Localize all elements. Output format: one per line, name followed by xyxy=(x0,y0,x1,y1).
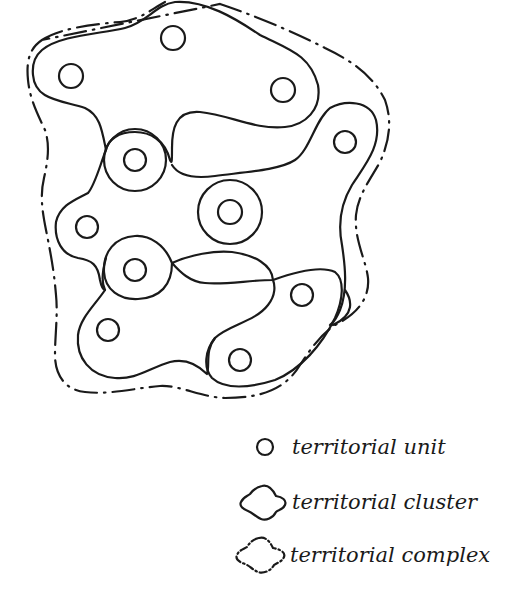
legend-item-unit: territorial unit xyxy=(257,435,446,459)
cluster-ring-center-top xyxy=(104,129,166,191)
territorial-unit xyxy=(124,149,146,171)
cluster-ring-lower-center xyxy=(104,236,172,299)
legend-item-complex: territorial complex xyxy=(236,538,490,573)
territorial-unit xyxy=(271,78,295,102)
cluster-ring-middle-right xyxy=(198,180,262,244)
territorial-complex-boundary xyxy=(28,2,390,398)
legend-label-cluster: territorial cluster xyxy=(292,490,479,514)
territorial-diagram: territorial unit territorial cluster ter… xyxy=(0,0,519,594)
territorial-units xyxy=(59,26,356,371)
territorial-unit xyxy=(124,259,146,281)
territorial-unit xyxy=(229,349,251,371)
unit-symbol-icon xyxy=(257,439,273,455)
territorial-unit xyxy=(161,26,185,50)
cluster-lens xyxy=(172,252,273,284)
territorial-unit xyxy=(76,216,98,238)
territorial-cluster-lower-right xyxy=(206,269,342,386)
legend-label-unit: territorial unit xyxy=(292,435,446,459)
territorial-cluster-left xyxy=(56,150,106,290)
territorial-unit xyxy=(218,200,242,224)
legend-item-cluster: territorial cluster xyxy=(240,486,479,520)
territorial-unit xyxy=(97,319,119,341)
territorial-unit xyxy=(334,131,356,153)
legend: territorial unit territorial cluster ter… xyxy=(236,435,490,573)
territorial-unit xyxy=(291,284,313,306)
legend-label-complex: territorial complex xyxy=(290,543,490,567)
cluster-symbol-icon xyxy=(240,486,285,520)
territorial-unit xyxy=(59,64,83,88)
complex-symbol-icon xyxy=(236,538,284,573)
